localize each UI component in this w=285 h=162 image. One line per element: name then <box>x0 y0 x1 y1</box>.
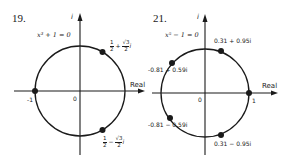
figure-19: 19. i x³ + 1 = 0 Real 0 -1 12 + √32i 12 … <box>0 0 145 162</box>
equation-label: x³ + 1 = 0 <box>37 32 71 39</box>
imaginary-axis-label: i <box>197 14 199 21</box>
root-point <box>100 49 106 55</box>
root-point <box>32 88 38 94</box>
real-axis-arrow-icon <box>271 91 278 96</box>
fraction: 12 <box>103 136 107 148</box>
root-point <box>218 132 224 138</box>
problem-number: 21. <box>153 13 167 24</box>
origin-label: 0 <box>73 96 77 102</box>
equation-label: x⁵ − 1 = 0 <box>165 32 199 39</box>
tick-label: 1 <box>252 98 256 104</box>
unit-circle-diagram-21 <box>140 0 285 162</box>
imaginary-axis-arrow-icon <box>203 14 208 22</box>
root-point <box>218 48 224 54</box>
root-label-upper: 12 + √32i <box>110 40 131 52</box>
root-label: 0.31 + 0.95i <box>214 38 251 44</box>
origin-label: 0 <box>198 97 202 103</box>
imaginary-axis-label: i <box>71 14 73 21</box>
imaginary-axis-arrow-icon <box>78 13 83 21</box>
root-label-lower: 12 − √32i <box>103 136 124 148</box>
tick-label: -1 <box>27 97 33 103</box>
root-point <box>246 90 252 96</box>
root-label: -0.81 + 0.59i <box>148 67 187 73</box>
problem-number: 19. <box>12 13 26 24</box>
fraction: 12 <box>110 40 114 52</box>
figure-21: 21. i x⁵ − 1 = 0 Real 0 1 0.31 + 0.95i -… <box>140 0 285 162</box>
root-point <box>100 127 106 133</box>
root-label: 0.31 − 0.95i <box>214 141 251 147</box>
root-label: -0.81 − 0.59i <box>148 122 187 128</box>
real-axis-label: Real <box>262 83 277 90</box>
